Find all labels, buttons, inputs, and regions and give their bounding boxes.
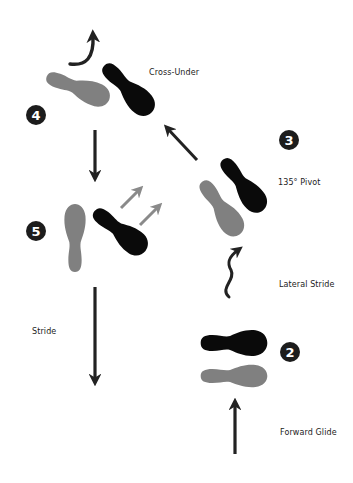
diagonal-arrow-icon: [168, 129, 197, 160]
push-arrow-icon-1: [121, 190, 139, 208]
skating-footwork-diagram: Cross-Under 135° Pivot Lateral Stride Fo…: [0, 0, 353, 483]
label-stride: Stride: [32, 327, 56, 336]
step-badge-2: 2: [280, 342, 300, 362]
label-135-pivot: 135° Pivot: [278, 178, 320, 187]
black-footprint-step5: [87, 201, 153, 260]
label-forward-glide: Forward Glide: [280, 428, 337, 437]
wavy-arrow-icon: [226, 250, 238, 297]
black-footprint-step2: [201, 330, 268, 356]
push-arrow-icon-2: [140, 207, 158, 225]
label-cross-under: Cross-Under: [149, 68, 199, 77]
step-badge-4: 4: [26, 105, 46, 125]
gray-footprint-step2: [201, 365, 268, 387]
gray-footprint-step5: [64, 204, 85, 272]
step-badge-3: 3: [279, 130, 299, 150]
label-lateral-stride: Lateral Stride: [279, 280, 335, 289]
step-badge-5: 5: [26, 221, 46, 241]
curved-arrow-icon: [70, 36, 93, 64]
